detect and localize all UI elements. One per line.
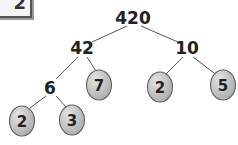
node-6: 6	[44, 78, 56, 98]
prime-leaf-7: 7	[86, 70, 112, 101]
node-10: 10	[175, 38, 199, 58]
node-42: 42	[70, 38, 94, 58]
prime-leaf-2: 2	[9, 106, 35, 137]
prime-leaf-5: 5	[210, 70, 236, 101]
prime-leaf-3: 3	[59, 105, 85, 136]
prime-leaf-2: 2	[147, 72, 173, 103]
root-node: 420	[115, 8, 151, 28]
